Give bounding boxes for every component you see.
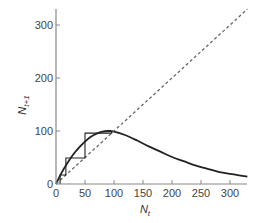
x-tick-label: 250 [192,187,210,199]
y-tick-label: 200 [35,72,53,84]
x-ticks: 050100150200250300 [53,180,239,199]
x-axis-label: Nt [140,203,151,218]
y-tick-label: 300 [35,19,53,31]
x-tick-label: 100 [105,187,123,199]
x-tick-label: 300 [221,187,239,199]
y-tick-label: 0 [47,178,53,190]
x-tick-label: 200 [163,187,181,199]
chart: 050100150200250300 0100200300 Nt Nt+1 [0,0,263,223]
y-axis-label: Nt+1 [16,95,31,114]
x-tick-label: 0 [53,187,59,199]
x-tick-label: 50 [79,187,91,199]
plot-area [56,9,247,184]
x-tick-label: 150 [134,187,152,199]
y-tick-label: 100 [35,125,53,137]
